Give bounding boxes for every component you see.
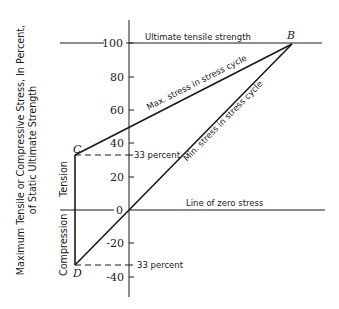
y-axis-label-line1: Maximum Tensile or Compressive Stress, I…	[15, 25, 26, 275]
y-axis-label: Maximum Tensile or Compressive Stress, I…	[15, 25, 38, 275]
y-axis-label-line2: of Static Ultimate Strength	[27, 86, 38, 214]
tick-neg20: -20	[106, 237, 124, 250]
tick-0: 0	[116, 204, 123, 217]
point-c-label: C	[73, 143, 82, 156]
tick-100: 100	[102, 37, 123, 50]
tick-60: 60	[110, 104, 124, 117]
ultimate-label: Ultimate tensile strength	[145, 32, 251, 42]
point-b-label: B	[286, 29, 295, 42]
compression-33-label: 33 percent	[137, 260, 184, 270]
tension-label: Tension	[58, 161, 69, 198]
tick-20: 20	[110, 171, 124, 184]
tick-80: 80	[110, 71, 124, 84]
y-axis-ticks	[126, 43, 134, 277]
tension-33-label: 33 percent	[134, 150, 181, 160]
max-stress-line	[75, 44, 292, 155]
zero-line-label: Line of zero stress	[186, 198, 264, 208]
tick-neg40: -40	[106, 271, 124, 284]
tick-40: 40	[110, 137, 124, 150]
goodman-diagram: Maximum Tensile or Compressive Stress, I…	[0, 0, 339, 309]
min-stress-label: Min. stress in stress cycle	[181, 79, 264, 163]
compression-label: Compression	[58, 214, 69, 276]
point-d-label: D	[72, 267, 82, 280]
